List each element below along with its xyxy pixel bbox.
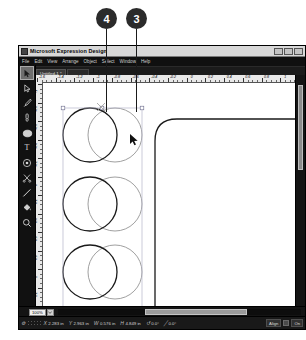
text-tool[interactable]: T (20, 141, 34, 155)
ruler-minor-tick (40, 172, 43, 173)
rotation-field[interactable]: ↺ 0.0° (146, 320, 159, 326)
menu-item-file[interactable]: File (22, 59, 29, 64)
ruler-minor-tick (40, 301, 43, 302)
menu-item-object[interactable]: Object (84, 59, 97, 64)
menu-item-window[interactable]: Window (120, 59, 136, 64)
ruler-label: -0.4 (151, 75, 157, 79)
ruler-minor-tick (98, 80, 99, 83)
ellipse-tool[interactable] (20, 126, 34, 140)
gradient-tool[interactable] (20, 156, 34, 170)
ruler-tick (262, 78, 263, 82)
selection-tool[interactable] (20, 66, 34, 80)
skew-field[interactable]: ╱ 0.0° (164, 320, 176, 326)
snap-status[interactable]: On (291, 319, 303, 327)
ruler-minor-tick (84, 80, 85, 83)
ruler-minor-tick (159, 80, 160, 83)
zoom-level-input[interactable]: 100% (29, 309, 46, 316)
snap-toggle-icon[interactable] (283, 320, 289, 326)
ruler-minor-tick (117, 80, 118, 83)
ruler-minor-tick (88, 80, 89, 83)
vertical-scrollbar-thumb[interactable] (298, 85, 303, 170)
maximize-button[interactable] (284, 48, 293, 55)
x-position-field[interactable]: X 2.283 in (44, 320, 64, 326)
ruler-tick (224, 78, 225, 82)
ruler-tick (38, 232, 42, 233)
artwork-svg (42, 82, 296, 307)
circle-dark-2 (63, 177, 117, 231)
snap-status-label: On (294, 321, 300, 326)
height-value: 4.849 in (125, 321, 140, 326)
ruler-tick (205, 78, 206, 82)
window-title: Microsoft Expression Design (30, 48, 107, 54)
y-position-field[interactable]: Y 2.963 in (69, 320, 89, 326)
menu-item-arrange[interactable]: Arrange (62, 59, 78, 64)
ruler-minor-tick (173, 80, 174, 83)
ruler-minor-tick (40, 144, 43, 145)
ruler-tick (38, 251, 42, 252)
horizontal-scrollbar[interactable] (58, 309, 301, 315)
ruler-minor-tick (40, 149, 43, 150)
ruler-minor-tick (40, 227, 43, 228)
menu-item-edit[interactable]: Edit (34, 59, 42, 64)
vertical-scrollbar[interactable] (295, 75, 305, 307)
ruler-tick (280, 78, 281, 82)
chevron-down-icon[interactable] (47, 309, 54, 316)
ruler-label: -1.6 (39, 75, 45, 79)
ruler-minor-tick (70, 80, 71, 83)
direct-selection-tool[interactable] (20, 81, 34, 95)
menu-item-view[interactable]: View (47, 59, 57, 64)
ruler-minor-tick (40, 153, 43, 154)
y-position-value: 2.963 in (73, 321, 88, 326)
ruler-minor-tick (40, 297, 43, 298)
status-bar: ⚙ X 2.283 in Y 2.963 in W 0.576 in H 4.8… (19, 316, 305, 329)
scissors-tool[interactable] (20, 171, 34, 185)
menu-bar: File Edit View Arrange Object Select Win… (19, 57, 305, 67)
menu-item-help[interactable]: Help (141, 59, 150, 64)
ruler-label: -1 (97, 75, 100, 79)
minimize-button[interactable] (274, 48, 283, 55)
anchor-reference-grid[interactable] (27, 320, 41, 327)
ruler-label: 0.6 (245, 75, 250, 79)
ruler-minor-tick (40, 93, 43, 94)
ruler-minor-tick (40, 107, 43, 108)
ruler-minor-tick (154, 80, 155, 83)
close-button[interactable] (294, 48, 303, 55)
width-value: 0.576 in (100, 321, 115, 326)
rounded-rectangle (155, 119, 296, 307)
align-button[interactable]: Align (266, 319, 281, 327)
ruler-minor-tick (107, 80, 108, 83)
circle-dark-1 (63, 108, 117, 162)
ruler-minor-tick (40, 190, 43, 191)
zoom-tool[interactable] (20, 216, 34, 230)
ruler-minor-tick (163, 80, 164, 83)
brush-tool[interactable] (20, 111, 34, 125)
ruler-minor-tick (121, 80, 122, 83)
ruler-minor-tick (40, 223, 43, 224)
menu-item-select[interactable]: Select (102, 59, 115, 64)
ruler-minor-tick (40, 130, 43, 131)
ruler-tick (38, 269, 42, 270)
ruler-minor-tick (229, 80, 230, 83)
ruler-tick (38, 103, 42, 104)
zoom-level-value: 100% (32, 310, 43, 315)
ruler-minor-tick (126, 80, 127, 83)
canvas-artboard[interactable] (42, 82, 296, 307)
pen-tool[interactable] (20, 96, 34, 110)
horizontal-ruler[interactable]: -1.6-1.4-1.2-1-0.8-0.6-0.4-0.200.20.40.6… (35, 75, 296, 83)
ruler-label: 0.2 (208, 75, 213, 79)
horizontal-scrollbar-thumb[interactable] (145, 309, 247, 315)
ruler-minor-tick (40, 274, 43, 275)
ruler-minor-tick (40, 186, 43, 187)
app-icon (21, 48, 28, 55)
line-tool[interactable] (20, 186, 34, 200)
height-field[interactable]: H 4.849 in (120, 320, 140, 326)
status-gear-icon[interactable]: ⚙ (21, 320, 25, 326)
width-field[interactable]: W 0.576 in (94, 320, 116, 326)
height-icon: H (120, 320, 124, 326)
vertical-ruler[interactable]: -1-0.8-0.6-0.4-0.200.20.40.60.811.21.4 (35, 82, 43, 307)
mouse-pointer (130, 134, 138, 145)
y-position-icon: Y (69, 320, 72, 326)
paint-bucket-tool[interactable] (20, 201, 34, 215)
circle-light-2 (88, 177, 142, 231)
ruler-minor-tick (40, 167, 43, 168)
